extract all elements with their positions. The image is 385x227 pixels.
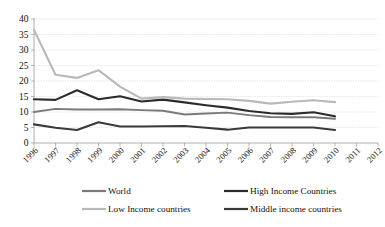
legend-label: World — [108, 186, 131, 196]
legend-label: Middle income countries — [250, 204, 342, 214]
series-line — [34, 122, 335, 130]
x-tick-label: 2007 — [257, 145, 277, 165]
gridlines — [34, 19, 378, 128]
x-tick-label: 2011 — [343, 145, 362, 164]
x-tick-label: 2009 — [300, 145, 319, 164]
y-axis-tick-labels: 0510152025303540 — [19, 14, 29, 148]
legend-label: Low Income countries — [108, 204, 191, 214]
x-tick-label: 2000 — [107, 145, 126, 164]
legend-label: High Income Countries — [250, 186, 337, 196]
x-tick-label: 2003 — [171, 145, 190, 164]
x-tick-label: 2004 — [193, 145, 213, 165]
x-tick-label: 2010 — [322, 145, 341, 164]
series-line — [34, 90, 335, 116]
y-tick-label: 30 — [19, 45, 29, 55]
y-tick-label: 5 — [24, 123, 29, 133]
chart-canvas: 0510152025303540 19961997199819992000200… — [0, 0, 385, 227]
x-axis-ticks — [34, 143, 378, 147]
y-tick-label: 25 — [19, 61, 29, 71]
y-tick-label: 35 — [19, 30, 29, 40]
x-tick-label: 2001 — [128, 145, 147, 164]
x-tick-label: 1999 — [85, 145, 104, 164]
y-tick-label: 20 — [19, 76, 29, 86]
line-chart: 0510152025303540 19961997199819992000200… — [0, 0, 385, 227]
x-tick-label: 1998 — [64, 145, 83, 164]
axes — [31, 18, 378, 143]
legend-item[interactable]: High Income Countries — [224, 186, 337, 196]
x-tick-label: 1997 — [42, 145, 62, 165]
x-tick-label: 2005 — [214, 145, 233, 164]
x-tick-label: 2006 — [236, 145, 256, 165]
legend-item[interactable]: World — [82, 186, 131, 196]
x-tick-label: 2002 — [150, 145, 169, 164]
series-line — [34, 30, 335, 104]
legend-item[interactable]: Low Income countries — [82, 204, 191, 214]
legend: WorldHigh Income CountriesLow Income cou… — [82, 186, 342, 214]
y-tick-label: 40 — [19, 14, 29, 24]
y-tick-label: 10 — [19, 107, 29, 117]
legend-item[interactable]: Middle income countries — [224, 204, 342, 214]
x-tick-label: 2008 — [279, 145, 298, 164]
y-tick-label: 15 — [19, 92, 29, 102]
data-series-group — [34, 30, 335, 130]
y-tick-label: 0 — [24, 138, 29, 148]
x-axis-tick-labels: 1996199719981999200020012002200320042005… — [21, 145, 384, 165]
x-tick-label: 2012 — [365, 145, 384, 164]
